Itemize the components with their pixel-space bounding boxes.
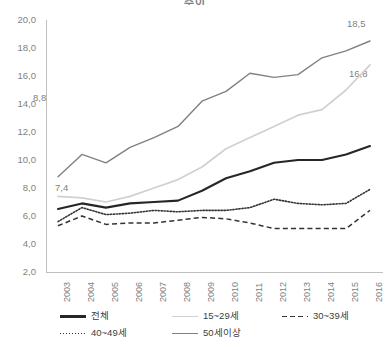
legend-item-30~39세[interactable]: 30~39세 [282, 309, 349, 323]
legend-swatch-icon [60, 311, 86, 321]
series-line-전체 [58, 146, 370, 209]
legend-swatch-icon [282, 311, 308, 321]
legend-label: 50세이상 [203, 327, 241, 338]
legend-label: 15~29세 [203, 310, 239, 321]
legend-label: 40~49세 [91, 327, 127, 338]
legend-swatch-icon [60, 328, 86, 338]
legend-item-전체[interactable]: 전체 [60, 309, 109, 323]
legend-swatch-icon [172, 311, 198, 321]
legend-item-50세이상[interactable]: 50세이상 [172, 326, 241, 340]
series-line-40~49세 [58, 189, 370, 221]
chart-plot-lines [0, 0, 389, 345]
legend-item-40~49세[interactable]: 40~49세 [60, 326, 127, 340]
legend-item-15~29세[interactable]: 15~29세 [172, 309, 239, 323]
legend-swatch-icon [172, 328, 198, 338]
legend-label: 30~39세 [313, 310, 349, 321]
series-line-15~29세 [58, 65, 370, 202]
chart-container: 추이 20,018,016,014,012,010,08,06,04,02,0 … [0, 0, 389, 345]
series-line-30~39세 [58, 210, 370, 228]
legend-label: 전체 [91, 310, 109, 321]
chart-legend: 전체15~29세30~39세40~49세50세이상 [0, 309, 389, 345]
